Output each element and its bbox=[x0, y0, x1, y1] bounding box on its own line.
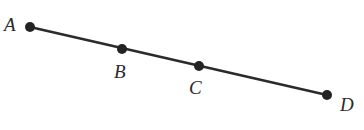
point-c-label: C bbox=[189, 77, 202, 98]
point-d: D bbox=[322, 90, 354, 115]
point-a-dot bbox=[25, 22, 35, 32]
point-d-label: D bbox=[339, 94, 354, 115]
point-c-dot bbox=[194, 61, 204, 71]
line-segment-diagram: A B C D bbox=[0, 0, 364, 130]
point-c: C bbox=[189, 61, 204, 98]
point-a: A bbox=[2, 14, 35, 35]
point-a-label: A bbox=[2, 14, 16, 35]
point-b: B bbox=[114, 44, 127, 82]
line-segment-ad bbox=[30, 27, 327, 95]
point-b-label: B bbox=[114, 61, 126, 82]
point-d-dot bbox=[322, 90, 332, 100]
point-b-dot bbox=[117, 44, 127, 54]
